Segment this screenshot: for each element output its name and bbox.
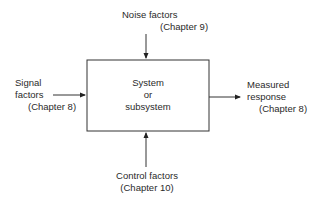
control-label: Control factors (Chapter 10) xyxy=(114,170,180,194)
noise-label: Noise factors (Chapter 9) xyxy=(122,9,208,33)
response-label: Measured response (Chapter 8) xyxy=(247,79,307,115)
system-label: System or subsystem xyxy=(118,77,178,113)
signal-label: Signal factors (Chapter 8) xyxy=(15,77,76,113)
